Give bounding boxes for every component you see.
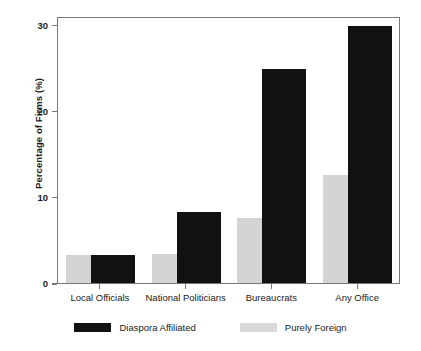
x-axis-tick-mark: [357, 284, 358, 289]
bar-diaspora-affiliated: [91, 255, 135, 283]
bar-diaspora-affiliated: [348, 26, 392, 283]
chart-legend: Diaspora AffiliatedPurely Foreign: [0, 322, 421, 333]
y-axis-title: Percentage of Firms (%): [33, 24, 44, 244]
bar-diaspora-affiliated: [177, 212, 221, 283]
y-axis-tick-label: 20: [37, 106, 48, 117]
x-axis-tick-mark: [185, 284, 186, 289]
legend-label: Diaspora Affiliated: [119, 322, 195, 333]
y-axis-tick-label: 10: [37, 192, 48, 203]
legend-swatch-foreign: [240, 323, 277, 332]
plot-area: [57, 17, 400, 284]
legend-entry: Purely Foreign: [240, 322, 347, 333]
x-axis-tick-mark: [99, 284, 100, 289]
x-axis-tick-mark: [271, 284, 272, 289]
bar-chart-figure: Percentage of Firms (%) 0102030 Local Of…: [0, 0, 421, 351]
bar-diaspora-affiliated: [262, 69, 306, 283]
y-axis-tick-label: 30: [37, 20, 48, 31]
legend-label: Purely Foreign: [285, 322, 347, 333]
y-axis-tick-label: 0: [43, 278, 48, 289]
legend-swatch-diaspora: [74, 323, 111, 332]
x-axis-tick-label: Any Office: [277, 292, 421, 303]
legend-entry: Diaspora Affiliated: [74, 322, 195, 333]
